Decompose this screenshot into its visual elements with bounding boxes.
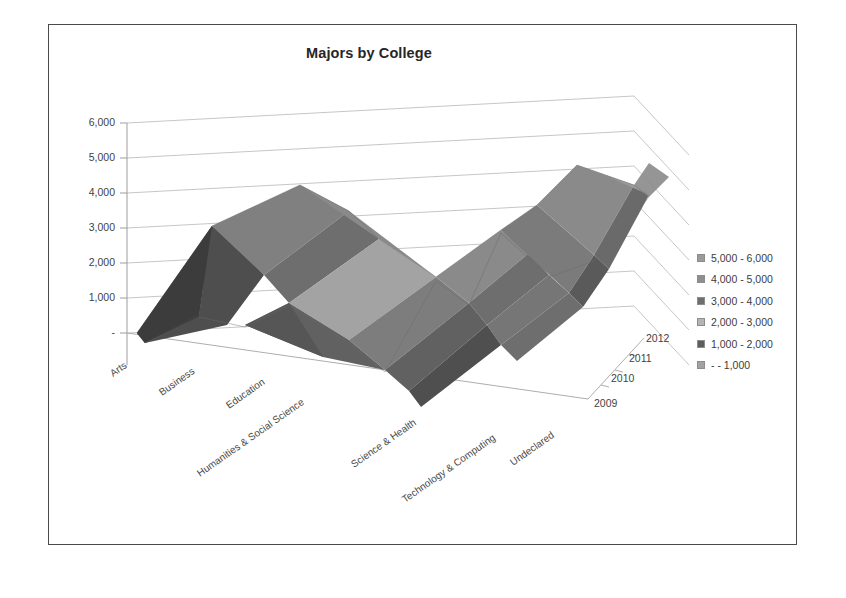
category-tick: Arts [108, 359, 129, 378]
value-tick-labels: 6,000 5,000 4,000 3,000 2,000 1,000 - [89, 116, 116, 338]
legend-swatch-icon [697, 254, 705, 262]
category-tick: Science & Health [349, 417, 418, 470]
category-tick: Education [224, 376, 267, 411]
category-tick: Humanities & Social Science [195, 396, 306, 479]
category-tick: Undeclared [508, 429, 556, 467]
legend-label: 2,000 - 3,000 [711, 316, 773, 328]
value-tick: 4,000 [89, 186, 115, 198]
legend-label: 1,000 - 2,000 [711, 338, 773, 350]
depth-axis-labels: 2012 2011 2010 2009 [594, 332, 670, 409]
legend-item[interactable]: 1,000 - 2,000 [697, 333, 817, 355]
depth-tick: 2011 [629, 352, 652, 364]
category-tick: Technology & Computing [400, 432, 497, 505]
value-tick: 6,000 [89, 116, 115, 128]
legend-swatch-icon [697, 340, 705, 348]
chart-legend: 5,000 - 6,000 4,000 - 5,000 3,000 - 4,00… [697, 247, 817, 376]
legend-swatch-icon [697, 361, 705, 369]
legend-label: 5,000 - 6,000 [711, 252, 773, 264]
legend-label: - - 1,000 [711, 359, 750, 371]
legend-swatch-icon [697, 297, 705, 305]
value-tick: 1,000 [89, 291, 115, 303]
legend-item[interactable]: 5,000 - 6,000 [697, 247, 817, 269]
depth-tick: 2010 [611, 372, 635, 384]
legend-swatch-icon [697, 275, 705, 283]
value-axis [120, 123, 127, 365]
value-tick: - [112, 326, 116, 338]
depth-tick: 2009 [594, 397, 618, 409]
legend-item[interactable]: - - 1,000 [697, 355, 817, 377]
value-tick: 5,000 [89, 151, 115, 163]
legend-item[interactable]: 4,000 - 5,000 [697, 269, 817, 291]
legend-swatch-icon [697, 318, 705, 326]
legend-item[interactable]: 3,000 - 4,000 [697, 290, 817, 312]
depth-tick: 2012 [646, 332, 670, 344]
legend-label: 3,000 - 4,000 [711, 295, 773, 307]
legend-item[interactable]: 2,000 - 3,000 [697, 312, 817, 334]
surface-mesh [137, 163, 669, 421]
legend-label: 4,000 - 5,000 [711, 273, 773, 285]
chart-frame: Majors by College [48, 24, 797, 545]
value-tick: 3,000 [89, 221, 115, 233]
value-tick: 2,000 [89, 256, 115, 268]
surface-chart-plot: 6,000 5,000 4,000 3,000 2,000 1,000 - [49, 25, 798, 544]
category-tick: Business [157, 365, 197, 397]
